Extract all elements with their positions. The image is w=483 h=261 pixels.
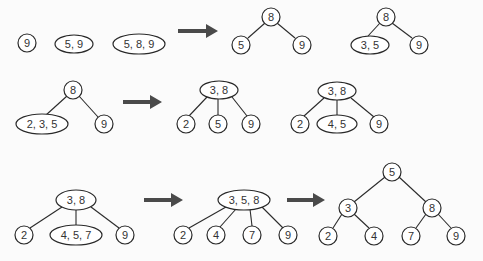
diagram-svg: 9 5, 9 5, 8, 9 8 5 9 8 [0, 0, 483, 261]
tree-node: 2, 3, 5 [16, 114, 68, 134]
tree-node: 3, 8 [318, 82, 356, 100]
row3-tree-c: 5 3 8 2 4 7 9 [319, 163, 465, 245]
tree-node: 9 [116, 226, 134, 244]
tree-node: 5 [383, 163, 401, 181]
tree-node: 4, 5, 7 [50, 225, 102, 245]
tree-node: 5 [232, 36, 250, 54]
svg-text:2: 2 [180, 229, 186, 241]
svg-text:9: 9 [376, 118, 382, 130]
tree-node: 9 [410, 36, 428, 54]
svg-text:9: 9 [122, 229, 128, 241]
tree-node: 3 [339, 199, 357, 217]
svg-text:8: 8 [383, 11, 389, 23]
diagram-canvas: 9 5, 9 5, 8, 9 8 5 9 8 [0, 0, 483, 261]
svg-text:5, 8, 9: 5, 8, 9 [124, 38, 155, 50]
tree-node: 7 [243, 226, 261, 244]
svg-text:7: 7 [408, 230, 414, 242]
tree-node: 8 [423, 199, 441, 217]
svg-text:2: 2 [325, 230, 331, 242]
tree-node: 7 [402, 227, 420, 245]
svg-text:2: 2 [21, 229, 27, 241]
svg-text:9: 9 [416, 39, 422, 51]
row3-tree-a: 3, 8 2 4, 5, 7 9 [15, 190, 134, 245]
svg-text:9: 9 [24, 37, 30, 49]
svg-text:9: 9 [299, 39, 305, 51]
tree-node: 2 [177, 115, 195, 133]
svg-text:3, 5: 3, 5 [361, 39, 379, 51]
tree-node: 2 [174, 226, 192, 244]
tree-node: 5 [209, 115, 227, 133]
tree-node: 4, 5 [317, 115, 357, 133]
svg-text:4: 4 [371, 230, 377, 242]
row1-node-5-9: 5, 9 [55, 35, 93, 53]
svg-text:9: 9 [453, 230, 459, 242]
tree-node: 3, 5, 8 [218, 190, 270, 210]
row2-tree-b: 3, 8 2 5 9 [177, 81, 260, 133]
arrow-right-icon [178, 24, 218, 38]
svg-text:9: 9 [248, 118, 254, 130]
tree-node: 2 [291, 115, 309, 133]
tree-node: 9 [370, 115, 388, 133]
tree-node: 4 [365, 227, 383, 245]
svg-text:9: 9 [285, 229, 291, 241]
svg-text:3, 8: 3, 8 [67, 194, 85, 206]
arrow-right-icon [123, 95, 162, 109]
tree-node: 3, 8 [56, 190, 96, 210]
row2-tree-a: 8 2, 3, 5 9 [16, 81, 113, 134]
arrow-right-icon [287, 193, 325, 207]
tree-node: 8 [377, 8, 395, 26]
tree-node: 8 [64, 81, 82, 99]
tree-node: 3, 5 [351, 36, 389, 54]
svg-text:3, 5, 8: 3, 5, 8 [229, 194, 260, 206]
svg-text:7: 7 [249, 229, 255, 241]
row1-tree-b: 8 3, 5 9 [351, 8, 428, 54]
arrow-right-icon [144, 193, 183, 207]
svg-text:5: 5 [238, 39, 244, 51]
tree-node: 9 [293, 36, 311, 54]
tree-node: 3, 8 [200, 81, 238, 99]
svg-text:3, 8: 3, 8 [328, 85, 346, 97]
svg-text:2, 3, 5: 2, 3, 5 [27, 118, 58, 130]
svg-text:2: 2 [297, 118, 303, 130]
svg-text:4, 5: 4, 5 [328, 118, 346, 130]
tree-node: 8 [262, 8, 280, 26]
svg-text:2: 2 [183, 118, 189, 130]
tree-node: 4 [207, 226, 225, 244]
row1-node-9: 9 [18, 34, 36, 52]
svg-text:8: 8 [429, 202, 435, 214]
svg-text:8: 8 [70, 84, 76, 96]
svg-text:3, 8: 3, 8 [210, 84, 228, 96]
svg-text:9: 9 [101, 118, 107, 130]
svg-text:8: 8 [268, 11, 274, 23]
tree-node: 9 [95, 115, 113, 133]
tree-node: 2 [319, 227, 337, 245]
row1-node-5-8-9: 5, 8, 9 [113, 34, 165, 54]
svg-text:5, 9: 5, 9 [65, 38, 83, 50]
svg-text:5: 5 [215, 118, 221, 130]
row3-tree-b: 3, 5, 8 2 4 7 9 [174, 190, 297, 244]
tree-node: 2 [15, 226, 33, 244]
row2-tree-c: 3, 8 2 4, 5 9 [291, 82, 388, 133]
tree-node: 9 [279, 226, 297, 244]
svg-text:5: 5 [389, 166, 395, 178]
svg-text:3: 3 [345, 202, 351, 214]
svg-text:4: 4 [213, 229, 219, 241]
svg-text:4, 5, 7: 4, 5, 7 [61, 229, 92, 241]
row1-tree-a: 8 5 9 [232, 8, 311, 54]
tree-node: 9 [447, 227, 465, 245]
tree-node: 9 [242, 115, 260, 133]
